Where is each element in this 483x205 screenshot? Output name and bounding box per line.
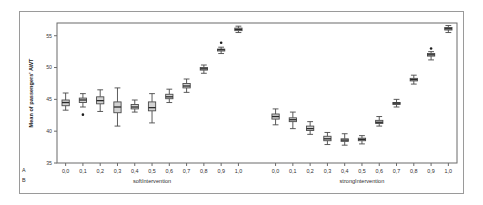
x-category-label: 0,9 [427,168,435,174]
x-category-label: 0,4 [341,168,349,174]
boxplot-strongIntervention-1,0[interactable] [445,26,452,33]
boxplot-softIntervention-0,3[interactable] [114,88,121,126]
boxplot-strongIntervention-0,1[interactable] [289,112,296,129]
x-category-label: 0,0 [272,168,280,174]
x-category-label: 1,0 [445,168,453,174]
x-category-label: 0,2 [306,168,314,174]
boxplot-softIntervention-0,4[interactable] [131,100,138,112]
boxplot-strongIntervention-0,9[interactable] [427,47,434,60]
y-tick-label: 55 [46,33,52,39]
x-category-label: 0,1 [79,168,87,174]
chart-figure: 3540455055Mean of passengers' AWTAB0,00,… [0,0,483,205]
y-tick-label: 50 [46,64,52,70]
x-category-label: 0,8 [200,168,208,174]
x-category-label: 0,7 [393,168,401,174]
x-category-label: 0,7 [183,168,191,174]
outlier-point [220,41,223,44]
x-category-label: 0,5 [148,168,156,174]
y-tick-label: 40 [46,128,52,134]
x-category-label: 0,9 [217,168,225,174]
x-category-label: 1,0 [235,168,243,174]
x-category-label: 0,6 [375,168,383,174]
x-category-label: 0,4 [131,168,139,174]
boxplot-strongIntervention-0,3[interactable] [324,132,331,144]
x-category-label: 0,1 [289,168,297,174]
boxplot-strongIntervention-0,0[interactable] [272,109,279,125]
x-category-label: 0,3 [324,168,332,174]
y-tick-label: 45 [46,96,52,102]
x-group-label-strongIntervention: strongIntervention [340,178,385,184]
boxplot-softIntervention-0,2[interactable] [97,90,104,112]
x-group-label-softIntervention: softIntervention [133,178,171,184]
boxplot-strongIntervention-0,4[interactable] [341,134,348,145]
x-category-label: 0,2 [96,168,104,174]
outlier-point [430,47,433,50]
boxplot-softIntervention-0,7[interactable] [183,79,190,92]
boxplot-strongIntervention-0,5[interactable] [358,136,365,144]
x-category-label: 0,5 [358,168,366,174]
y-axis-label: Mean of passengers' AWT [28,58,34,127]
boxplot-softIntervention-0,0[interactable] [62,93,69,110]
boxplot-softIntervention-0,9[interactable] [218,41,225,53]
plot-frame [57,23,457,163]
boxplot-softIntervention-1,0[interactable] [235,26,242,32]
axis-row-key-a: A [22,167,26,173]
x-category-label: 0,6 [166,168,174,174]
outlier-point [82,113,85,116]
axis-row-key-b: B [22,177,26,183]
x-category-label: 0,8 [410,168,418,174]
x-category-label: 0,3 [114,168,122,174]
boxplot-strongIntervention-0,7[interactable] [393,99,400,107]
boxplot-canvas: 3540455055Mean of passengers' AWTAB0,00,… [0,0,483,205]
box-iqr [148,102,155,111]
boxplot-softIntervention-0,6[interactable] [166,89,173,102]
boxplot-strongIntervention-0,8[interactable] [410,75,417,84]
boxplot-strongIntervention-0,6[interactable] [376,117,383,127]
boxplot-softIntervention-0,1[interactable] [79,94,86,116]
boxplot-softIntervention-0,5[interactable] [148,94,155,123]
boxplot-strongIntervention-0,2[interactable] [307,122,314,135]
boxplot-softIntervention-0,8[interactable] [200,65,207,73]
y-tick-label: 35 [46,160,52,166]
x-category-label: 0,0 [62,168,70,174]
